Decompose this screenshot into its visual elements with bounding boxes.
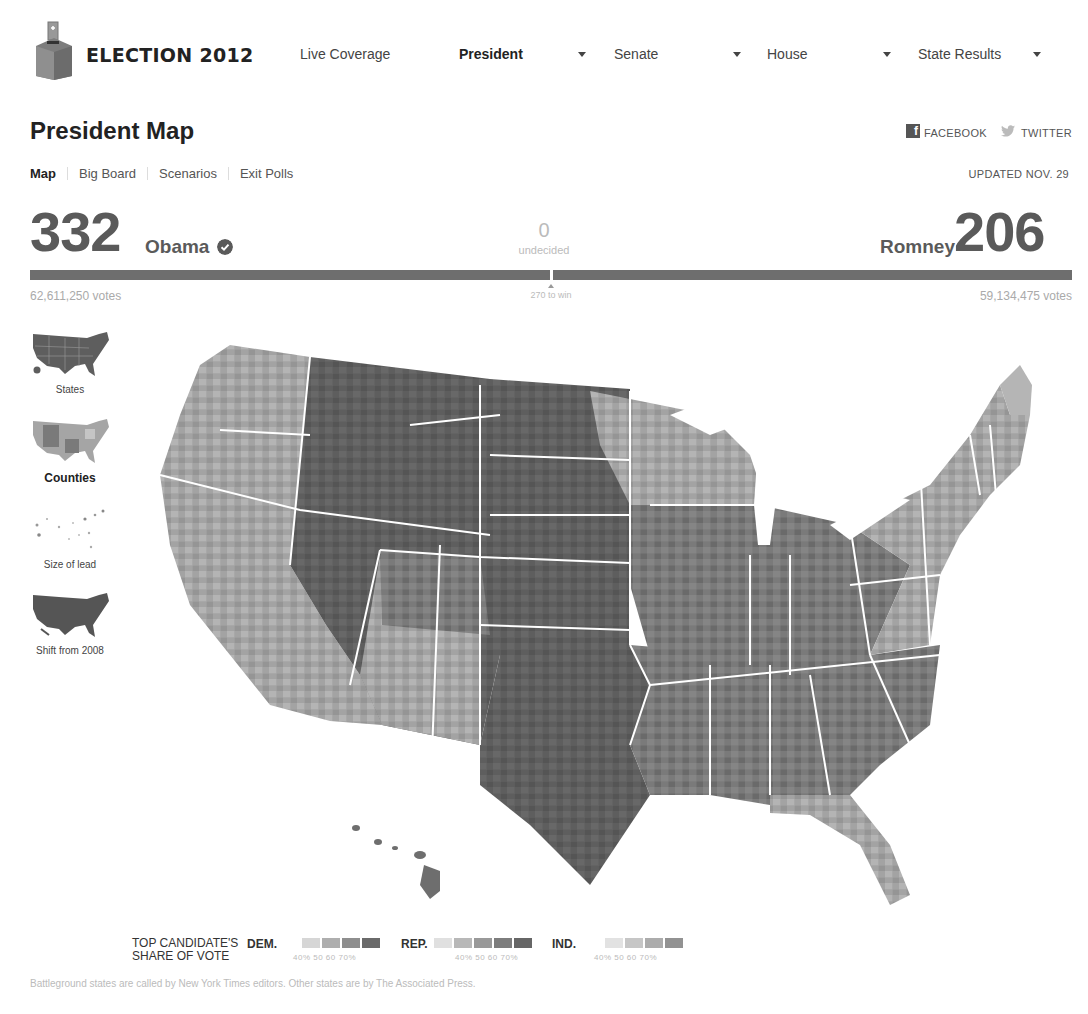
chevron-down-icon[interactable]	[1033, 52, 1041, 57]
chevron-down-icon[interactable]	[578, 52, 586, 57]
view-shift-from-2008[interactable]: Shift from 2008	[20, 591, 120, 656]
updated-timestamp: UPDATED NOV. 29	[969, 168, 1069, 180]
dem-popular-votes: 62,611,250 votes	[30, 289, 121, 303]
tab-divider	[147, 167, 148, 180]
rep-candidate-name: Romney	[880, 236, 955, 258]
us-map-dots-icon	[29, 505, 111, 555]
rep-popular-votes: 59,134,475 votes	[980, 289, 1072, 303]
legend-ind-label: IND.	[552, 937, 576, 951]
twitter-share-link[interactable]: TWITTER	[1021, 127, 1072, 139]
swatch	[342, 938, 360, 948]
legend-dem-label: DEM.	[247, 937, 277, 951]
view-counties[interactable]: Counties	[20, 417, 120, 485]
nav-president[interactable]: President	[459, 46, 523, 62]
page-title: President Map	[30, 117, 194, 145]
swatch	[494, 938, 512, 948]
nav-house[interactable]: House	[767, 46, 807, 62]
us-map-counties-icon	[29, 417, 111, 467]
legend-dem-scale: 40% 50 60 70%	[293, 953, 356, 962]
view-label: States	[20, 384, 120, 395]
view-states[interactable]: States	[20, 330, 120, 395]
tab-scenarios[interactable]: Scenarios	[159, 166, 217, 181]
brand-title[interactable]: ELECTION 2012	[86, 44, 254, 66]
twitter-icon[interactable]	[1001, 125, 1015, 137]
footnote: Battleground states are called by New Yo…	[30, 978, 476, 989]
view-size-of-lead[interactable]: Size of lead	[20, 505, 120, 570]
swatch	[645, 938, 663, 948]
legend-rep-swatches	[434, 938, 532, 948]
swatch	[322, 938, 340, 948]
tab-map[interactable]: Map	[30, 166, 56, 181]
tab-big-board[interactable]: Big Board	[79, 166, 136, 181]
us-map-shift-icon	[29, 591, 111, 641]
rep-electoral-bar	[553, 270, 1072, 280]
dem-electoral-bar	[30, 270, 550, 280]
region-colorado	[380, 550, 490, 635]
tab-divider	[67, 167, 68, 180]
region-florida	[770, 795, 910, 905]
facebook-share-link[interactable]: FACEBOOK	[924, 127, 987, 139]
nav-live-coverage[interactable]: Live Coverage	[300, 46, 390, 62]
chevron-down-icon[interactable]	[883, 52, 891, 57]
legend-ind-swatches	[605, 938, 683, 948]
region-south	[630, 645, 940, 805]
swatch	[454, 938, 472, 948]
ballot-box-icon[interactable]	[34, 20, 74, 80]
legend-rep-label: REP.	[401, 937, 427, 951]
swatch	[474, 938, 492, 948]
threshold-label: 270 to win	[0, 290, 1088, 300]
threshold-line	[550, 267, 553, 283]
swatch	[302, 938, 320, 948]
sub-tabs: Map Big Board Scenarios Exit Polls	[30, 166, 293, 181]
chevron-down-icon[interactable]	[733, 52, 741, 57]
legend-dem-swatches	[302, 938, 380, 948]
legend-title-line: SHARE OF VOTE	[132, 950, 238, 963]
swatch	[362, 938, 380, 948]
nav-state-results[interactable]: State Results	[918, 46, 1001, 62]
facebook-icon[interactable]: f	[906, 124, 920, 138]
caret-up-icon	[548, 284, 554, 288]
view-label: Size of lead	[20, 559, 120, 570]
swatch	[665, 938, 683, 948]
legend-ind-scale: 40% 50 60 70%	[594, 953, 657, 962]
us-map-states-icon	[29, 330, 111, 380]
tab-divider	[228, 167, 229, 180]
hawaii	[352, 825, 440, 899]
view-label: Counties	[20, 471, 120, 485]
legend-title: TOP CANDIDATE'S SHARE OF VOTE	[132, 937, 238, 963]
swatch	[514, 938, 532, 948]
legend-rep-scale: 40% 50 60 70%	[455, 953, 518, 962]
swatch	[605, 938, 623, 948]
view-label: Shift from 2008	[20, 645, 120, 656]
rep-electoral-votes: 206	[954, 204, 1044, 260]
nav-senate[interactable]: Senate	[614, 46, 658, 62]
us-county-map[interactable]	[150, 325, 1040, 915]
tab-exit-polls[interactable]: Exit Polls	[240, 166, 293, 181]
swatch	[434, 938, 452, 948]
top-nav: ELECTION 2012 Live Coverage President Se…	[0, 0, 1088, 100]
swatch	[625, 938, 643, 948]
